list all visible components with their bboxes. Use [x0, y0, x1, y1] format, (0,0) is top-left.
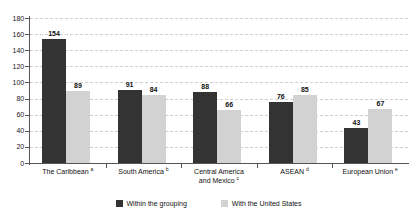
bar-value-label: 67: [365, 100, 395, 107]
footnote-marker: b: [166, 166, 169, 172]
chart-legend: Within the groupingWith the United State…: [0, 200, 417, 207]
footnote-marker: e: [395, 166, 398, 172]
bar-value-label: 66: [214, 101, 244, 108]
legend-swatch: [116, 200, 123, 207]
bars-layer: 154899184886676854367: [30, 18, 408, 163]
x-tick-mark: [257, 163, 258, 168]
bar-group: 7685: [257, 18, 333, 163]
bar-group: 9184: [106, 18, 182, 163]
x-axis-category-labels: The Caribbean aSouth America bCentral Am…: [30, 168, 408, 190]
legend-label: With the United States: [232, 200, 302, 207]
bar: [293, 95, 317, 163]
bar: [142, 95, 166, 163]
bar-value-label: 88: [190, 83, 220, 90]
x-category-label: ASEAN d: [257, 168, 333, 177]
x-category-label: South America b: [106, 168, 182, 177]
footnote-marker: c: [237, 174, 240, 180]
x-tick-mark: [106, 163, 107, 168]
bar-group: 15489: [30, 18, 106, 163]
bar: [42, 39, 66, 163]
bar: [368, 109, 392, 163]
legend-item: With the United States: [221, 200, 302, 207]
footnote-marker: a: [91, 166, 94, 172]
x-tick-mark: [181, 163, 182, 168]
x-category-label: European Union e: [332, 168, 408, 177]
legend-swatch: [221, 200, 228, 207]
legend-label: Within the grouping: [127, 200, 187, 207]
legend-item: Within the grouping: [116, 200, 187, 207]
x-category-label: Central Americaand Mexico c: [181, 168, 257, 185]
bar: [344, 128, 368, 163]
bar-group: 8866: [181, 18, 257, 163]
x-tick-mark: [332, 163, 333, 168]
bar-group: 4367: [332, 18, 408, 163]
footnote-marker: d: [306, 166, 309, 172]
bar-chart: 020406080100120140160180 154899184886676…: [0, 0, 417, 221]
bar-value-label: 85: [290, 86, 320, 93]
bar-value-label: 89: [63, 82, 93, 89]
bar: [269, 102, 293, 163]
bar-value-label: 43: [341, 119, 371, 126]
bar-value-label: 76: [266, 93, 296, 100]
bar: [66, 91, 90, 163]
bar-value-label: 154: [39, 30, 69, 37]
x-category-label: The Caribbean a: [30, 168, 106, 177]
x-axis-line: [29, 163, 409, 164]
bar-value-label: 84: [139, 86, 169, 93]
bar: [118, 90, 142, 163]
bar: [217, 110, 241, 163]
